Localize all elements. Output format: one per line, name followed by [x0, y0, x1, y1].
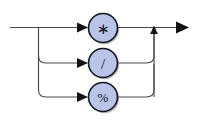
node-multiply-operator[interactable]: ∗	[89, 14, 120, 45]
node-divide-operator[interactable]: /	[89, 49, 120, 80]
merge-line-from-modulo	[118, 64, 155, 97]
node-modulo-label: %	[98, 90, 109, 105]
arrow-merge-up-icon	[150, 26, 158, 35]
arrow-into-divide-icon	[77, 58, 88, 68]
arrow-exit-icon	[176, 22, 189, 34]
merge-line-from-divide	[118, 33, 155, 63]
railroad-diagram: ∗ / %	[0, 0, 198, 122]
arrow-into-modulo-icon	[77, 92, 88, 102]
node-multiply-label: ∗	[97, 21, 110, 37]
railroad-diagram-canvas: ∗ / %	[0, 0, 198, 122]
arrow-into-multiply-icon	[77, 23, 88, 33]
node-modulo-operator[interactable]: %	[89, 83, 120, 114]
